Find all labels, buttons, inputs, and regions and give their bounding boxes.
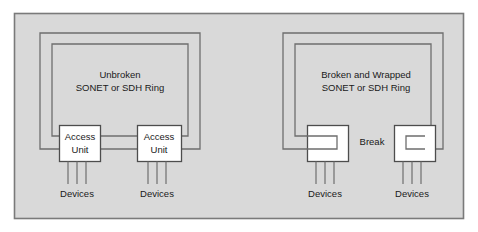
access-unit-1-label-line2: Unit xyxy=(72,144,89,155)
devices-label-left-1: Devices xyxy=(60,188,94,199)
devices-label-right-2: Devices xyxy=(395,188,429,199)
wrapped-unit-2-box xyxy=(395,126,436,162)
broken-ring-title-line2: SONET or SDH Ring xyxy=(322,82,411,93)
access-unit-1-label-line1: Access xyxy=(65,131,96,142)
devices-label-right-1: Devices xyxy=(308,188,342,199)
access-unit-2-label-line1: Access xyxy=(144,131,175,142)
diagram-canvas: Unbroken SONET or SDH Ring Access Unit D… xyxy=(0,0,478,232)
wrapped-unit-1-box xyxy=(308,126,349,162)
devices-label-left-2: Devices xyxy=(140,188,174,199)
break-label: Break xyxy=(360,136,385,147)
sonet-sdh-ring-diagram: Unbroken SONET or SDH Ring Access Unit D… xyxy=(0,0,478,232)
unbroken-ring-title-line2: SONET or SDH Ring xyxy=(76,82,165,93)
broken-ring-title-line1: Broken and Wrapped xyxy=(321,69,411,80)
unbroken-ring-title-line1: Unbroken xyxy=(99,69,140,80)
access-unit-2-label-line2: Unit xyxy=(151,144,168,155)
